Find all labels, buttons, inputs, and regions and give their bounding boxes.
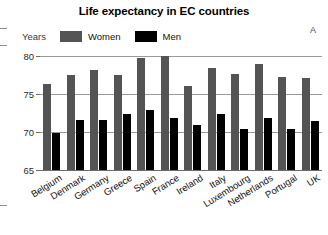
bar-men-luxembourg — [240, 129, 248, 170]
legend-item-women: Women — [60, 31, 121, 42]
bar-men-portugal — [287, 129, 295, 170]
bar-women-greece — [114, 75, 122, 170]
bar-men-denmark — [76, 120, 84, 170]
bar-men-spain — [146, 110, 154, 170]
bar-men-ireland — [193, 125, 201, 170]
page-margin-tick — [0, 205, 7, 206]
y-axis-units-label: Years — [22, 31, 46, 42]
y-tick-label-65: 65 — [23, 165, 34, 176]
bar-women-uk — [302, 78, 310, 170]
bar-group-portugal — [275, 56, 299, 170]
bar-group-luxembourg — [228, 56, 252, 170]
panel-letter: A — [310, 25, 316, 35]
bar-group-uk — [299, 56, 323, 170]
bar-women-italy — [208, 68, 216, 170]
bar-group-greece — [111, 56, 135, 170]
bar-men-germany — [99, 120, 107, 170]
bar-women-ireland — [184, 86, 192, 170]
bar-groups — [40, 56, 322, 170]
bar-men-greece — [123, 114, 131, 170]
bar-women-belgium — [43, 84, 51, 170]
bar-group-ireland — [181, 56, 205, 170]
bar-men-netherlands — [264, 118, 272, 170]
bar-men-belgium — [52, 133, 60, 170]
y-tick-label-70: 70 — [23, 127, 34, 138]
bar-women-germany — [90, 70, 98, 170]
chart-title: Life expectancy in EC countries — [0, 5, 328, 17]
legend-label-men: Men — [163, 31, 181, 42]
bar-group-spain — [134, 56, 158, 170]
bar-group-belgium — [40, 56, 64, 170]
bar-men-uk — [311, 121, 319, 170]
chart-figure: Life expectancy in EC countries A Years … — [0, 0, 328, 235]
page-margin-tick — [0, 45, 7, 46]
legend-label-women: Women — [88, 31, 121, 42]
bar-women-portugal — [278, 77, 286, 170]
bar-group-germany — [87, 56, 111, 170]
page-margin-tick — [0, 28, 7, 29]
bar-group-france — [158, 56, 182, 170]
y-tick-label-80: 80 — [23, 51, 34, 62]
bar-group-netherlands — [252, 56, 276, 170]
bar-men-italy — [217, 114, 225, 170]
x-axis-labels: BelgiumDenmarkGermanyGreeceSpainFranceIr… — [40, 170, 322, 232]
legend-swatch-women-icon — [60, 31, 82, 42]
bar-women-netherlands — [255, 64, 263, 170]
bar-men-france — [170, 118, 178, 170]
bar-women-denmark — [67, 75, 75, 170]
bar-women-luxembourg — [231, 74, 239, 170]
chart-legend: Years Women Men — [22, 29, 195, 43]
bar-group-denmark — [64, 56, 88, 170]
x-axis-label-uk: UK — [305, 172, 322, 188]
bar-women-france — [161, 56, 169, 170]
x-axis-label-ireland: Ireland — [174, 172, 204, 197]
legend-swatch-men-icon — [135, 31, 157, 42]
y-tick-label-75: 75 — [23, 89, 34, 100]
bar-women-spain — [137, 58, 145, 170]
bar-group-italy — [205, 56, 229, 170]
legend-item-men: Men — [135, 31, 181, 42]
plot-area: 80757065 — [40, 56, 322, 170]
